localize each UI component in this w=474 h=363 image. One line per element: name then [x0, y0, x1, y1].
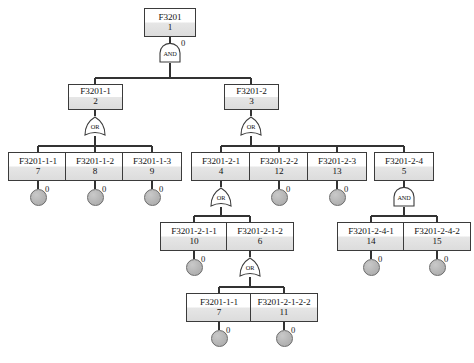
node-f3201-2-1-2-2[interactable]: F3201-2-1-2-2 11 — [250, 293, 318, 322]
node-f3201-1-3[interactable]: F3201-1-3 9 — [122, 152, 182, 181]
node-f3201-2-3[interactable]: F3201-2-3 13 — [307, 152, 367, 181]
node-number: 4 — [219, 167, 224, 177]
or-gate-f3201-1[interactable]: OR — [82, 116, 108, 136]
node-number: 8 — [93, 167, 98, 177]
and-gate-top[interactable]: AND — [157, 43, 183, 63]
node-f3201-2-1-2[interactable]: F3201-2-1-2 6 — [226, 222, 294, 251]
node-f3201-1-2[interactable]: F3201-1-2 8 — [65, 152, 125, 181]
node-number: 7 — [217, 308, 222, 318]
or-gate-f3201-2[interactable]: OR — [238, 116, 264, 136]
node-id: F3201-1-1 — [19, 157, 57, 167]
node-id: F3201-2-2 — [260, 157, 298, 167]
gate-annotation: 0 — [181, 39, 185, 48]
node-f3201[interactable]: F3201 1 — [144, 8, 196, 37]
node-id: F3201-1-1 — [200, 298, 238, 308]
basic-event-f3201-2-1-2-2[interactable] — [276, 330, 293, 347]
node-id: F3201-2-1-1 — [171, 227, 216, 237]
node-f3201-2[interactable]: F3201-2 3 — [224, 84, 279, 110]
basic-event-annotation: 0 — [344, 185, 348, 194]
node-number: 2 — [93, 97, 98, 107]
basic-event-annotation: 0 — [102, 185, 106, 194]
basic-event-annotation: 0 — [378, 255, 382, 264]
node-number: 7 — [36, 167, 41, 177]
node-id: F3201-2-4-1 — [348, 227, 393, 237]
node-f3201-2-4-1[interactable]: F3201-2-4-1 14 — [337, 222, 405, 251]
node-f3201-2-1-1[interactable]: F3201-2-1-1 10 — [160, 222, 228, 251]
or-gate-f3201-2-1-2[interactable]: OR — [237, 257, 263, 277]
node-id: F3201-2-4-2 — [414, 227, 459, 237]
node-id: F3201-2-1-2 — [237, 227, 282, 237]
node-number: 10 — [189, 237, 198, 247]
node-id: F3201-1-2 — [76, 157, 114, 167]
or-gate-f3201-2-1[interactable]: OR — [208, 187, 234, 207]
node-number: 15 — [432, 237, 441, 247]
node-f3201-2-4-2[interactable]: F3201-2-4-2 15 — [403, 222, 471, 251]
basic-event-f3201-2-1-1[interactable] — [186, 259, 203, 276]
basic-event-annotation: 0 — [159, 185, 163, 194]
node-f3201-2-4[interactable]: F3201-2-4 5 — [374, 152, 434, 181]
node-f3201-2-1[interactable]: F3201-2-1 4 — [191, 152, 251, 181]
basic-event-f3201-2-4-1[interactable] — [363, 259, 380, 276]
basic-event-f3201-2-4-2[interactable] — [429, 259, 446, 276]
node-f3201-1-1[interactable]: F3201-1-1 7 — [8, 152, 68, 181]
node-id: F3201-2-4 — [385, 157, 423, 167]
basic-event-f3201-1-1[interactable] — [30, 189, 47, 206]
node-id: F3201-2-1-2-2 — [258, 298, 311, 308]
basic-event-f3201-1-3[interactable] — [144, 189, 161, 206]
basic-event-f3201-2-3[interactable] — [329, 189, 346, 206]
basic-event-annotation: 0 — [201, 255, 205, 264]
node-number: 1 — [168, 23, 173, 33]
node-number: 5 — [402, 167, 407, 177]
basic-event-f3201-1-2[interactable] — [87, 189, 104, 206]
node-number: 3 — [249, 97, 254, 107]
node-number: 13 — [332, 167, 341, 177]
basic-event-f3201-1-1-repeat[interactable] — [211, 330, 228, 347]
node-f3201-1-1-repeat[interactable]: F3201-1-1 7 — [186, 293, 252, 322]
and-gate-f3201-2-4[interactable]: AND — [391, 187, 417, 207]
node-f3201-1[interactable]: F3201-1 2 — [68, 84, 123, 110]
basic-event-annotation: 0 — [45, 185, 49, 194]
node-id: F3201-1-3 — [133, 157, 171, 167]
basic-event-annotation: 0 — [226, 326, 230, 335]
node-id: F3201 — [159, 13, 182, 23]
fault-tree-diagram: F3201 1 AND 0 F3201-1 2 OR F3201-2 3 OR … — [0, 0, 474, 363]
node-f3201-2-2[interactable]: F3201-2-2 12 — [249, 152, 309, 181]
node-number: 6 — [258, 237, 263, 247]
basic-event-f3201-2-2[interactable] — [271, 189, 288, 206]
node-number: 9 — [150, 167, 155, 177]
basic-event-annotation: 0 — [291, 326, 295, 335]
node-number: 14 — [366, 237, 375, 247]
node-id: F3201-2-3 — [318, 157, 356, 167]
basic-event-annotation: 0 — [444, 255, 448, 264]
node-number: 11 — [280, 308, 289, 318]
node-number: 12 — [274, 167, 283, 177]
node-id: F3201-2-1 — [202, 157, 240, 167]
basic-event-annotation: 0 — [286, 185, 290, 194]
